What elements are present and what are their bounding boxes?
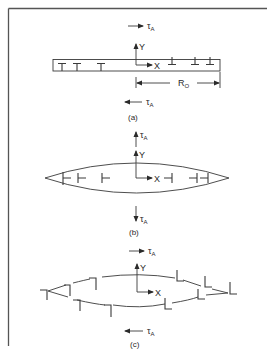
y-axis: Y xyxy=(137,263,146,292)
pileup-length-dimension: RO xyxy=(136,72,220,89)
dimension-label: RO xyxy=(178,78,190,89)
panel-caption: (a) xyxy=(128,113,138,122)
stress-label: τA xyxy=(147,21,155,32)
broken-lens-segments xyxy=(48,275,228,307)
panel-b: τA Y X τA (b) xyxy=(45,130,229,237)
applied-stress-arrow-bottom: τA xyxy=(125,326,155,337)
applied-stress-arrow-top: τA xyxy=(129,246,156,257)
svg-text:X: X xyxy=(154,174,160,184)
x-axis: X xyxy=(136,174,160,184)
y-axis: Y xyxy=(136,42,145,65)
applied-stress-arrow-top: τA xyxy=(136,130,148,147)
dislocations-left xyxy=(58,64,105,72)
stress-label: τA xyxy=(146,97,154,108)
applied-stress-arrow-bottom: τA xyxy=(136,206,148,225)
panel-c: τA Y X xyxy=(40,246,237,349)
applied-stress-arrow-bottom: τA xyxy=(125,97,154,108)
stress-label: τA xyxy=(140,214,148,225)
dislocations-right xyxy=(165,270,237,309)
dislocation-pileup-diagram: τA Y X RO xyxy=(0,0,267,354)
x-axis: X xyxy=(137,288,161,298)
panel-caption: (c) xyxy=(130,340,140,349)
svg-text:Y: Y xyxy=(140,263,146,273)
dislocations-right xyxy=(168,57,214,65)
svg-text:X: X xyxy=(154,61,160,71)
svg-text:Y: Y xyxy=(139,42,145,52)
y-axis: Y xyxy=(136,150,145,178)
svg-text:X: X xyxy=(155,288,161,298)
applied-stress-arrow-top: τA xyxy=(128,21,155,32)
stress-label: τA xyxy=(148,246,156,257)
svg-text:Y: Y xyxy=(139,150,145,160)
panel-caption: (b) xyxy=(129,228,139,237)
dislocations-left xyxy=(40,278,111,317)
panel-a: τA Y X RO xyxy=(53,21,220,122)
dislocations-left xyxy=(63,172,110,185)
x-axis: X xyxy=(136,61,160,71)
stress-label: τA xyxy=(140,130,148,141)
stress-label: τA xyxy=(147,326,155,337)
dislocations-right xyxy=(164,173,208,183)
